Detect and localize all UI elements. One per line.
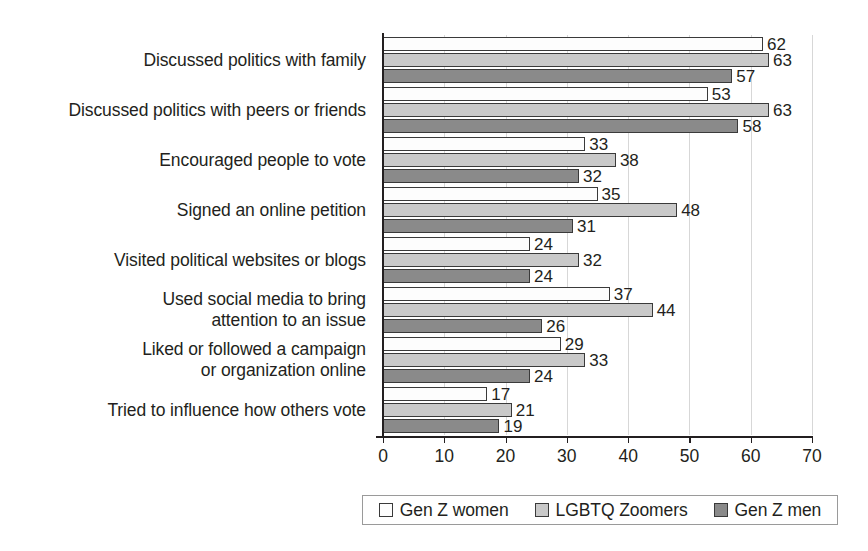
bar-value-label: 44	[657, 304, 676, 318]
bar-value-label: 53	[712, 88, 731, 102]
bar-value-label: 62	[767, 38, 786, 52]
y-axis-line	[382, 33, 384, 437]
gridline	[812, 35, 813, 435]
bar	[383, 203, 677, 217]
dark-gray-square-icon	[714, 503, 728, 517]
light-gray-square-icon	[535, 503, 549, 517]
bar-value-label: 24	[534, 270, 553, 284]
legend-label: Gen Z men	[735, 500, 822, 521]
bar	[383, 53, 769, 67]
bar-value-label: 58	[742, 120, 761, 134]
category-label: Discussed politics with peers or friends	[0, 100, 366, 121]
bar-value-label: 31	[577, 220, 596, 234]
bar	[383, 287, 610, 301]
bar	[383, 87, 708, 101]
category-label: Liked or followed a campaignor organizat…	[0, 339, 366, 381]
x-axis-tick-label: 60	[741, 446, 760, 467]
bar-value-label: 26	[546, 320, 565, 334]
bar	[383, 303, 653, 317]
x-axis-tick-label: 0	[378, 446, 388, 467]
horizontal-bar-chart: Discussed politics with familyDiscussed …	[0, 0, 868, 551]
bar	[383, 69, 732, 83]
bar-value-label: 17	[491, 388, 510, 402]
x-axis-tick-mark	[444, 437, 445, 443]
bar-value-label: 57	[736, 70, 755, 84]
bar-value-label: 32	[583, 254, 602, 268]
category-label: Used social media to bringattention to a…	[0, 289, 366, 331]
bar	[383, 403, 512, 417]
bar-value-label: 24	[534, 238, 553, 252]
bar-value-label: 33	[589, 354, 608, 368]
bar-value-label: 48	[681, 204, 700, 218]
legend-label: Gen Z women	[400, 500, 509, 521]
x-axis-tick-label: 40	[618, 446, 637, 467]
bar	[383, 269, 530, 283]
chart-legend: Gen Z womenLGBTQ ZoomersGen Z men	[362, 495, 838, 525]
bar	[383, 319, 542, 333]
category-label: Encouraged people to vote	[0, 150, 366, 171]
legend-item[interactable]: Gen Z women	[379, 500, 509, 521]
legend-item[interactable]: LGBTQ Zoomers	[535, 500, 688, 521]
bar	[383, 253, 579, 267]
x-axis-tick-label: 30	[557, 446, 576, 467]
x-axis-tick-label: 50	[680, 446, 699, 467]
bar	[383, 187, 598, 201]
x-axis-tick-mark	[751, 437, 752, 443]
bar	[383, 219, 573, 233]
x-axis-tick-mark	[689, 437, 690, 443]
legend-label: LGBTQ Zoomers	[556, 500, 688, 521]
bar-value-label: 38	[620, 154, 639, 168]
bar	[383, 237, 530, 251]
white-square-icon	[379, 503, 393, 517]
category-label: Discussed politics with family	[0, 50, 366, 71]
bar-value-label: 33	[589, 138, 608, 152]
x-axis-tick-mark	[383, 437, 384, 443]
bar-value-label: 63	[773, 104, 792, 118]
bar	[383, 337, 561, 351]
x-axis-tick-mark	[628, 437, 629, 443]
gridline	[751, 35, 752, 435]
bar	[383, 153, 616, 167]
bar-value-label: 29	[565, 338, 584, 352]
bar-value-label: 21	[516, 404, 535, 418]
category-label: Tried to influence how others vote	[0, 400, 366, 421]
x-axis-tick-mark	[506, 437, 507, 443]
bar	[383, 353, 585, 367]
bar	[383, 419, 499, 433]
bar-value-label: 37	[614, 288, 633, 302]
x-axis-tick-label: 70	[802, 446, 821, 467]
bar-value-label: 24	[534, 370, 553, 384]
category-label: Signed an online petition	[0, 200, 366, 221]
x-axis-tick-mark	[567, 437, 568, 443]
bar-value-label: 19	[503, 420, 522, 434]
bar	[383, 369, 530, 383]
legend-item[interactable]: Gen Z men	[714, 500, 822, 521]
bar-value-label: 63	[773, 54, 792, 68]
plot-area: 6263575363583338323548312432243744262933…	[383, 35, 812, 435]
bar	[383, 103, 769, 117]
bar	[383, 119, 738, 133]
x-axis-line	[376, 436, 813, 438]
bar-value-label: 32	[583, 170, 602, 184]
x-axis-tick-mark	[812, 437, 813, 443]
bar-value-label: 35	[602, 188, 621, 202]
bar	[383, 37, 763, 51]
bar	[383, 137, 585, 151]
x-axis-tick-label: 10	[435, 446, 454, 467]
category-axis-labels: Discussed politics with familyDiscussed …	[0, 35, 374, 435]
bar	[383, 387, 487, 401]
bar	[383, 169, 579, 183]
category-label: Visited political websites or blogs	[0, 250, 366, 271]
x-axis-tick-label: 20	[496, 446, 515, 467]
